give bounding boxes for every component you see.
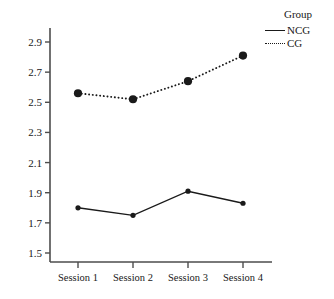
y-axis-tick-label: 2.1 [8,157,42,169]
legend-swatch-dotted-line-icon [264,39,286,49]
data-point-ncg-1 [75,205,80,210]
legend-label-cg: CG [286,38,302,49]
data-point-ncg-4 [240,201,245,206]
legend-swatch-solid-line-icon [264,26,286,36]
data-point-ncg-3 [185,189,190,194]
legend-item-ncg[interactable]: NCG [264,24,334,37]
data-point-cg-4 [239,51,247,59]
series-line-ncg [78,191,243,215]
y-axis-tick-label: 1.9 [8,187,42,199]
legend-title: Group [262,8,334,20]
data-point-cg-1 [74,89,82,97]
x-axis-tick-label: Session 1 [58,272,98,283]
y-axis-tick-label: 2.9 [8,36,42,48]
y-axis-tick-label: 1.5 [8,247,42,259]
x-axis-tick-label: Session 2 [113,272,153,283]
line-chart: 1.51.71.92.12.32.52.72.9 Session 1Sessio… [0,0,334,299]
x-axis-tick-label: Session 3 [168,272,208,283]
data-point-ncg-2 [130,213,135,218]
y-axis-tick-label: 2.7 [8,66,42,78]
legend: Group NCG CG [258,8,334,50]
legend-label-ncg: NCG [286,25,310,36]
series-line-cg [78,56,243,100]
legend-item-cg[interactable]: CG [264,37,334,50]
y-axis-tick-label: 1.7 [8,217,42,229]
y-axis-tick-label: 2.3 [8,126,42,138]
data-point-cg-3 [184,77,192,85]
x-axis-tick-label: Session 4 [223,272,263,283]
y-axis-tick-label: 2.5 [8,96,42,108]
data-point-cg-2 [129,95,137,103]
